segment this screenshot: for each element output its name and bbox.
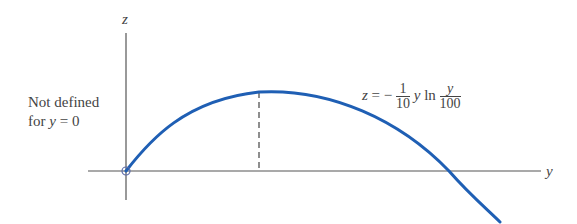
equation-label: z = − 110 y ln y100: [362, 82, 461, 111]
curve: [126, 92, 500, 222]
z-axis-label: z: [122, 10, 128, 28]
note-line-1: Not defined: [28, 93, 99, 111]
note-line-2: for y = 0: [28, 112, 79, 130]
y-axis-label: y: [546, 162, 553, 180]
plot-area: [0, 0, 577, 224]
